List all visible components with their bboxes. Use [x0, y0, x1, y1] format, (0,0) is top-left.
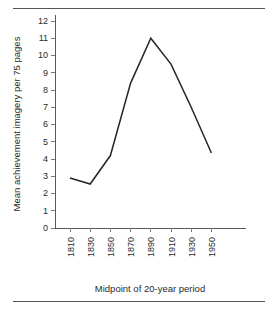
y-tick-label: 4: [43, 154, 48, 164]
x-tick-label: 1910: [167, 237, 177, 257]
y-tick-label: 6: [43, 119, 48, 129]
x-tick-label: 1890: [146, 237, 156, 257]
y-tick-label: 12: [38, 16, 48, 26]
x-tick-label: 1850: [106, 237, 116, 257]
y-tick-label: 10: [38, 50, 48, 60]
y-tick-labels: 0123456789101112: [38, 16, 48, 233]
y-tick-label: 11: [39, 33, 48, 43]
data-line-series-1: [70, 38, 211, 184]
x-tick-label: 1870: [126, 237, 136, 257]
x-tick-labels: 18101830185018701890191019301950: [66, 237, 217, 257]
x-tick-label: 1950: [207, 237, 217, 257]
y-tick-label: 9: [43, 68, 48, 78]
line-chart: 0123456789101112 18101830185018701890191…: [0, 0, 278, 314]
x-tick-label: 1810: [66, 237, 76, 257]
y-tick-label: 1: [43, 206, 48, 216]
x-axis: [55, 228, 246, 232]
y-tick-label: 3: [43, 171, 48, 181]
x-axis-title: Midpoint of 20-year period: [95, 283, 205, 294]
y-tick-label: 5: [43, 137, 48, 147]
y-tick-label: 8: [43, 85, 48, 95]
y-tick-label: 2: [43, 188, 48, 198]
x-tick-label: 1830: [86, 237, 96, 257]
y-tick-label: 7: [43, 102, 48, 112]
x-tick-label: 1930: [187, 237, 197, 257]
y-axis: [51, 15, 55, 228]
y-tick-label: 0: [43, 223, 48, 233]
figure-container: 0123456789101112 18101830185018701890191…: [0, 0, 278, 314]
y-axis-title: Mean achievement imagery per 75 pages: [11, 36, 22, 211]
